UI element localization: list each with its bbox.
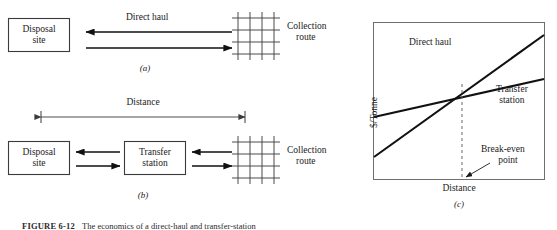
panel-c-caption: (c)	[373, 199, 545, 209]
collection-route-label-a-line1: Collection	[287, 21, 327, 31]
chart-x-axis-label: Distance	[373, 183, 545, 194]
panel-a-caption: (a)	[0, 63, 290, 73]
chart-series-label-transfer-station: Transfer station	[496, 84, 528, 105]
collection-route-grid-a	[232, 12, 280, 60]
distance-label-b: Distance	[0, 97, 286, 108]
panel-b-caption: (b)	[0, 190, 286, 200]
disposal-site-label-b-line2: site	[32, 158, 45, 168]
collection-route-grid-b	[232, 136, 280, 184]
disposal-site-label-b: Disposal site	[8, 147, 70, 168]
figure-caption-id: FIGURE 6-12	[22, 221, 75, 230]
figure-container: Disposal site Direct haul Collection rou…	[0, 0, 557, 230]
chart-y-axis-label: $/Tonne	[369, 97, 379, 128]
disposal-site-label-a-line2: site	[32, 35, 45, 45]
collection-route-label-b-line1: Collection	[287, 145, 327, 155]
break-even-annotation: Break-even point	[481, 144, 525, 165]
break-even-leader-arrow	[466, 163, 490, 177]
transfer-station-label-b-line1: Transfer	[139, 147, 171, 157]
transfer-station-label-b-line2: station	[142, 158, 167, 168]
collection-route-label-a: Collection route	[287, 21, 327, 42]
collection-route-label-b: Collection route	[287, 145, 327, 166]
chart-series-label-transfer-line1: Transfer	[496, 84, 528, 94]
chart-series-label-transfer-line2: station	[499, 95, 524, 105]
collection-route-label-b-line2: route	[296, 156, 316, 167]
direct-haul-arrow-label: Direct haul	[126, 12, 168, 23]
collection-route-label-a-line2: route	[296, 32, 316, 43]
disposal-site-label-b-line1: Disposal	[22, 147, 55, 157]
transfer-station-label-b: Transfer station	[124, 147, 186, 168]
disposal-site-label-a-line1: Disposal	[22, 24, 55, 34]
break-even-annotation-line2: point	[498, 155, 518, 166]
figure-caption-text: The economics of a direct-haul and trans…	[82, 221, 256, 230]
disposal-site-label-a: Disposal site	[8, 24, 70, 45]
chart-series-label-direct-haul: Direct haul	[409, 37, 451, 48]
break-even-annotation-line1: Break-even	[481, 144, 525, 154]
figure-caption: FIGURE 6-12 The economics of a direct-ha…	[22, 221, 256, 230]
